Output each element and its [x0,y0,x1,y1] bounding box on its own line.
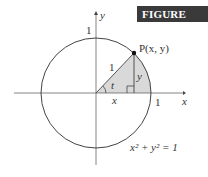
horizontal-leg-label: x [111,94,117,106]
unit-circle-diagram: y x 1 1 P(x, y) 1 y x t x² + y² = 1 [0,0,208,177]
right-intercept-label: 1 [155,96,161,108]
x-axis-label: x [181,95,187,107]
y-axis-label: y [99,9,105,21]
point-label: P(x, y) [139,42,169,55]
hypotenuse-label: 1 [109,61,115,73]
top-intercept-label: 1 [86,24,92,36]
y-axis-arrow-icon [94,11,98,15]
equation-label: x² + y² = 1 [129,141,178,153]
vertical-leg-label: y [136,70,142,82]
point-p-marker [132,51,136,55]
